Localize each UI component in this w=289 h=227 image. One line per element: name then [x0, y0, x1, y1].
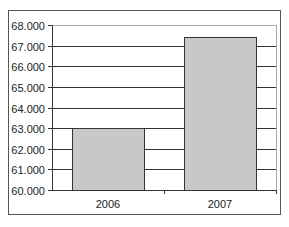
x-tick-label: 2007	[208, 198, 232, 210]
y-tick-label: 61.000	[11, 164, 45, 176]
bar-2007	[185, 38, 257, 191]
y-axis-labels: 60.00061.00062.00063.00064.00065.00066.0…	[11, 20, 45, 197]
y-tick-label: 65.000	[11, 82, 45, 94]
y-tick-label: 63.000	[11, 123, 45, 135]
y-tick-label: 62.000	[11, 144, 45, 156]
y-tick-label: 66.000	[11, 61, 45, 73]
bars	[73, 38, 257, 191]
y-tick-label: 60.000	[11, 185, 45, 197]
bar-2006	[73, 129, 145, 191]
y-tick-label: 67.000	[11, 41, 45, 53]
x-tick-label: 2006	[96, 198, 120, 210]
x-axis-labels: 20062007	[96, 198, 232, 210]
y-tick-label: 68.000	[11, 20, 45, 32]
y-tick-label: 64.000	[11, 103, 45, 115]
bar-chart: 60.00061.00062.00063.00064.00065.00066.0…	[0, 0, 289, 227]
